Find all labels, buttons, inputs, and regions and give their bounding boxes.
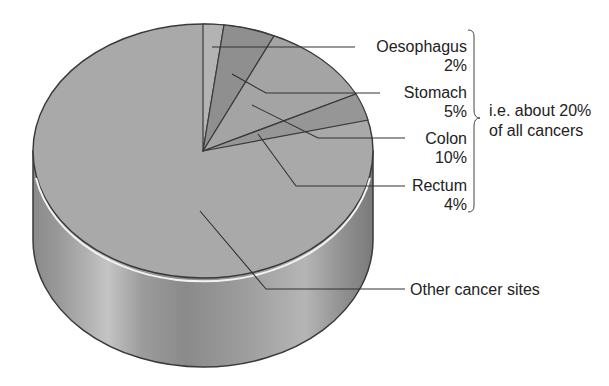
- label-oesophagus-pct: 2%: [376, 56, 467, 75]
- label-rectum-name: Rectum: [412, 176, 467, 195]
- annotation-line-1: i.e. about 20%: [489, 101, 591, 121]
- annotation-line-2: of all cancers: [489, 121, 591, 141]
- label-stomach-pct: 5%: [404, 102, 467, 121]
- label-other-name: Other cancer sites: [410, 280, 540, 299]
- label-oesophagus: Oesophagus 2%: [376, 37, 467, 75]
- label-stomach: Stomach 5%: [404, 83, 467, 121]
- label-rectum: Rectum 4%: [412, 176, 467, 214]
- label-colon: Colon 10%: [425, 129, 467, 167]
- label-colon-pct: 10%: [425, 148, 467, 167]
- label-stomach-name: Stomach: [404, 83, 467, 102]
- label-oesophagus-name: Oesophagus: [376, 37, 467, 56]
- label-other-cancer-sites: Other cancer sites: [410, 280, 540, 299]
- bracket: [468, 30, 480, 212]
- pie-chart-3d: [0, 0, 609, 386]
- label-colon-name: Colon: [425, 129, 467, 148]
- annotation-about-20-percent: i.e. about 20% of all cancers: [489, 101, 591, 141]
- label-rectum-pct: 4%: [412, 195, 467, 214]
